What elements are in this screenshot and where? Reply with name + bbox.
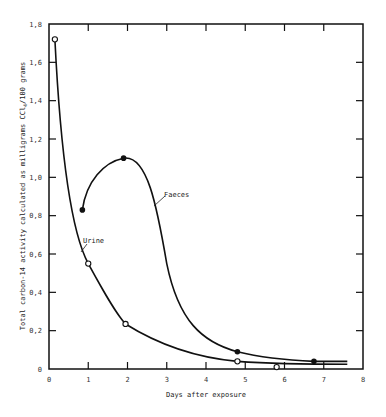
x-tick-label: 2 — [125, 376, 129, 384]
x-tick-label: 5 — [243, 376, 247, 384]
y-tick-label: 0,2 — [29, 327, 42, 335]
urine-point — [274, 364, 279, 369]
x-tick-label: 7 — [322, 376, 326, 384]
y-axis-ticks: 00,20,40,60,81,01,21,41,61,8 — [29, 21, 363, 374]
y-tick-label: 1,6 — [29, 59, 42, 67]
y-axis-title: Total carbon-14 activity calculated as m… — [19, 62, 28, 331]
urine-point — [235, 359, 240, 364]
faeces-label: Faeces — [164, 191, 189, 199]
x-axis-ticks: 012345678 — [47, 24, 365, 384]
plot-frame — [49, 24, 363, 369]
urine-label: Urine — [83, 237, 104, 245]
faeces-point — [80, 207, 86, 213]
x-tick-label: 3 — [165, 376, 169, 384]
x-tick-label: 8 — [361, 376, 365, 384]
faeces-point — [121, 155, 127, 161]
faeces-point — [235, 349, 241, 355]
data-markers — [52, 37, 316, 370]
y-tick-label: 1,2 — [29, 136, 42, 144]
y-tick-label: 0,6 — [29, 251, 42, 259]
urine-curve — [55, 39, 347, 364]
chart: 012345678 00,20,40,60,81,01,21,41,61,8 F… — [0, 0, 386, 417]
x-tick-label: 1 — [86, 376, 90, 384]
x-axis-title: Days after exposure — [166, 391, 246, 399]
data-curves — [55, 39, 347, 364]
x-tick-label: 6 — [282, 376, 286, 384]
x-tick-label: 0 — [47, 376, 51, 384]
faeces-curve — [82, 158, 347, 361]
urine-point — [123, 321, 128, 326]
urine-point — [52, 37, 57, 42]
y-tick-label: 1,8 — [29, 21, 42, 29]
y-tick-label: 1,4 — [29, 97, 42, 105]
y-tick-label: 0 — [38, 366, 42, 374]
faeces-point — [311, 359, 317, 365]
y-tick-label: 0,8 — [29, 212, 42, 220]
urine-point — [86, 261, 91, 266]
y-tick-label: 0,4 — [29, 289, 42, 297]
x-tick-label: 4 — [204, 376, 208, 384]
y-tick-label: 1,0 — [29, 174, 42, 182]
